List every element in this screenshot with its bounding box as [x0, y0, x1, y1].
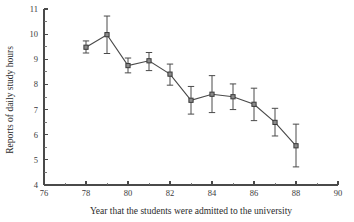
data-point-marker [210, 92, 214, 96]
x-tick-label: 90 [334, 188, 343, 198]
data-point-marker [168, 72, 172, 76]
y-tick-label: 4 [34, 180, 39, 190]
y-axis-title: Reports of daily study hours [5, 46, 15, 154]
data-point-marker [189, 98, 193, 102]
axes-layer: 45678910117678808284868890 [30, 4, 343, 198]
data-point-marker [147, 59, 151, 63]
y-tick-label: 8 [34, 79, 38, 89]
line-chart-with-error-bars: 45678910117678808284868890 Reports of da… [0, 0, 354, 222]
x-tick-label: 80 [124, 188, 133, 198]
y-tick-label: 11 [30, 4, 38, 14]
data-point-marker [105, 33, 109, 37]
x-axis-title: Year that the students were admitted to … [90, 206, 292, 216]
data-point-marker [126, 63, 130, 67]
data-point-marker [84, 45, 88, 49]
x-tick-label: 86 [250, 188, 259, 198]
x-tick-label: 88 [292, 188, 301, 198]
data-series-layer [83, 16, 299, 167]
data-point-marker [273, 120, 277, 124]
data-point-marker [231, 95, 235, 99]
y-tick-label: 6 [34, 130, 38, 140]
x-tick-label: 82 [166, 188, 175, 198]
x-tick-label: 76 [40, 188, 49, 198]
x-tick-label: 78 [82, 188, 91, 198]
data-point-marker [294, 144, 298, 148]
y-tick-label: 9 [34, 54, 38, 64]
y-tick-label: 5 [34, 155, 38, 165]
chart-container: 45678910117678808284868890 Reports of da… [0, 0, 354, 222]
x-tick-label: 84 [208, 188, 217, 198]
y-tick-label: 10 [30, 29, 39, 39]
data-point-marker [252, 102, 256, 106]
y-tick-label: 7 [34, 105, 38, 115]
